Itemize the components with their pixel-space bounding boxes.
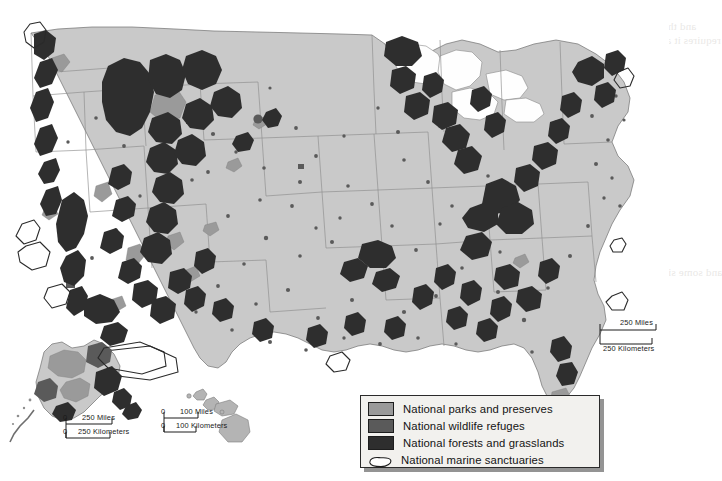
scalebar-alaska-zero-label: 0 (63, 413, 67, 422)
scalebar-alaska-miles-label: 250 Miles (82, 413, 115, 422)
niihau (187, 394, 191, 398)
scalebar-hawaii-miles-label: 100 Miles (180, 407, 213, 416)
legend-item-wildlife-refuges: National wildlife refuges (368, 417, 593, 434)
scalebar-hawaii-km-label: 100 Kilometers (176, 421, 227, 430)
legend-label-marine-sanctuaries: National marine sanctuaries (401, 454, 544, 466)
scalebar-hawaii: 0 100 Miles 0 100 Kilometers (158, 404, 268, 440)
scalebar-alaska: 0 250 Miles 0 250 Kilometers (60, 410, 170, 446)
scalebar-hawaii-zero-label-km: 0 (161, 421, 165, 430)
scalebar-hawaii-zero-label: 0 (161, 407, 165, 416)
scalebar-conus-km-label: 250 Kilometers (603, 344, 654, 353)
scalebar-conus-miles-label: 250 Miles (620, 318, 653, 327)
legend-label-forests-grasslands: National forests and grasslands (403, 437, 564, 449)
legend-label-national-parks: National parks and preserves (403, 403, 553, 415)
legend-swatch-wildlife-refuges (368, 419, 394, 433)
legend-item-forests-grasslands: National forests and grasslands (368, 434, 593, 451)
legend-swatch-national-parks (368, 402, 394, 416)
legend-swatch-forests-grasslands (368, 436, 394, 450)
legend-swatch-marine-sanctuaries (368, 454, 392, 466)
legend-label-wildlife-refuges: National wildlife refuges (403, 420, 525, 432)
scalebar-alaska-zero-label-km: 0 (63, 427, 67, 436)
scalebar-alaska-km-label: 250 Kilometers (78, 427, 129, 436)
map-legend: National parks and preserves National wi… (360, 395, 600, 468)
marine-sanctuary-blob-icon (368, 456, 392, 468)
legend-item-marine-sanctuaries: National marine sanctuaries (368, 451, 593, 468)
legend-item-national-parks: National parks and preserves (368, 400, 593, 417)
scalebar-conus: 250 Miles 250 Kilometers (598, 318, 669, 350)
